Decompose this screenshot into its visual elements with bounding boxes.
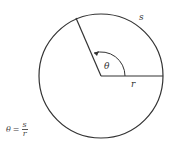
radius-label: r (131, 79, 135, 89)
denominator: r (23, 130, 27, 138)
formula-equals: = (13, 125, 20, 134)
angle-arc (94, 52, 125, 76)
arc-label: s (139, 12, 144, 22)
radius-angled (76, 18, 101, 76)
formula: θ = s r (6, 121, 28, 138)
arrow-head-icon (94, 51, 99, 56)
formula-lhs: θ (6, 125, 11, 134)
fraction: s r (22, 121, 28, 138)
angle-label: θ (104, 61, 109, 71)
